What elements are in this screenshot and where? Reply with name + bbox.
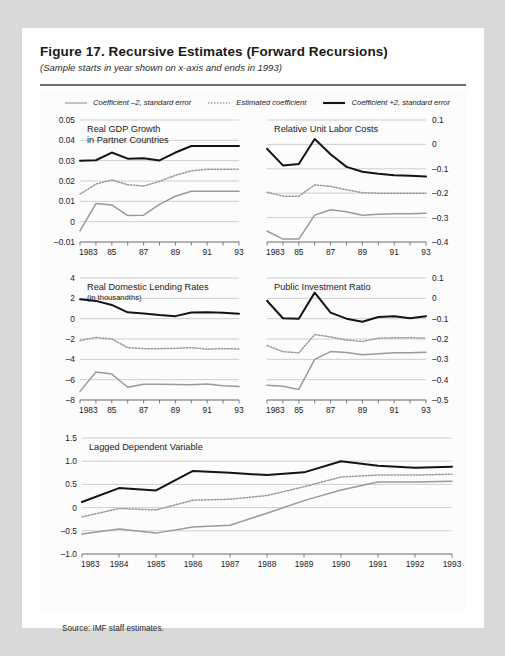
panel-title: Real GDP Growth: [87, 124, 160, 134]
y-axis-tick-label: –4: [66, 354, 76, 364]
series-line: [80, 146, 239, 161]
chart-panel-5: –1.0–0.500.51.01.51983198419851986198719…: [40, 430, 466, 580]
y-axis-tick-label: 0.1: [432, 273, 444, 283]
series-line: [267, 335, 426, 353]
page-background: Figure 17. Recursive Estimates (Forward …: [0, 0, 505, 656]
line-chart-1: –0.0100.010.020.030.040.0519838587899193…: [40, 112, 253, 264]
line-chart-2: –0.4–0.3–0.2–0.100.119838587899193Relati…: [253, 112, 466, 264]
x-axis-tick-label: 1989: [295, 559, 314, 569]
y-axis-tick-label: 0.01: [59, 196, 76, 206]
x-axis-tick-label: 1993: [443, 559, 462, 569]
x-axis-tick-label: 93: [421, 247, 431, 257]
x-axis-tick-label: 1983: [266, 247, 285, 257]
x-axis-tick-label: 87: [139, 405, 149, 415]
line-chart-3: –8–6–4–202419838587899193Real Domestic L…: [40, 270, 253, 422]
x-axis-tick-label: 87: [326, 247, 336, 257]
header-divider: [40, 84, 466, 86]
x-axis-tick-label: 89: [171, 405, 181, 415]
plot-grid: –0.0100.010.020.030.040.0519838587899193…: [40, 112, 466, 582]
chart-panel-4: –0.5–0.4–0.3–0.2–0.100.119838587899193Pu…: [253, 270, 466, 422]
x-axis-tick-label: 85: [107, 247, 117, 257]
y-axis-tick-label: –2: [66, 334, 76, 344]
x-axis-tick-label: 1983: [79, 247, 98, 257]
panel-title: Relative Unit Labor Costs: [274, 124, 379, 134]
figure-header: Figure 17. Recursive Estimates (Forward …: [40, 44, 466, 73]
x-axis-tick-label: 87: [139, 247, 149, 257]
x-axis-tick-label: 1983: [266, 405, 285, 415]
x-axis-tick-label: 1991: [369, 559, 388, 569]
x-axis-tick-label: 1986: [184, 559, 203, 569]
x-axis-tick-label: 1990: [332, 559, 351, 569]
x-axis-tick-label: 1987: [221, 559, 240, 569]
series-line: [267, 210, 426, 239]
line-chart-4: –0.5–0.4–0.3–0.2–0.100.119838587899193Pu…: [253, 270, 466, 422]
chart-legend: Coefficient –2, standard errorEstimated …: [62, 98, 452, 107]
source-note: Source: IMF staff estimates.: [62, 624, 164, 633]
x-axis-tick-label: 1988: [258, 559, 277, 569]
panel-title: Lagged Dependent Variable: [89, 442, 203, 452]
y-axis-tick-label: –1.0: [61, 549, 78, 559]
y-axis-tick-label: –0.4: [432, 237, 449, 247]
x-axis-tick-label: 93: [421, 405, 431, 415]
x-axis-tick-label: 91: [390, 247, 400, 257]
x-axis-tick-label: 91: [203, 405, 213, 415]
x-axis-tick-label: 89: [358, 405, 368, 415]
x-axis-tick-label: 91: [203, 247, 213, 257]
y-axis-tick-label: –0.3: [432, 213, 449, 223]
panel-title: in Partner Countries: [87, 135, 169, 145]
y-axis-tick-label: –0.5: [432, 395, 449, 405]
legend-swatch-dotted-icon: [207, 99, 231, 107]
y-axis-tick-label: 0.05: [59, 115, 76, 125]
x-axis-tick-label: 1985: [147, 559, 166, 569]
y-axis-tick-label: –6: [66, 375, 76, 385]
x-axis-tick-label: 1983: [79, 405, 98, 415]
series-line: [267, 352, 426, 390]
y-axis-tick-label: –0.5: [61, 526, 78, 536]
series-line: [267, 293, 426, 322]
x-axis-tick-label: 93: [234, 247, 244, 257]
series-line: [82, 474, 452, 517]
x-axis-tick-label: 85: [294, 405, 304, 415]
panel-title: Real Domestic Lending Rates: [87, 282, 209, 292]
legend-swatch-thin-solid-icon: [64, 99, 88, 107]
y-axis-tick-label: –0.3: [432, 354, 449, 364]
x-axis-tick-label: 89: [171, 247, 181, 257]
y-axis-tick-label: 4: [70, 273, 75, 283]
x-axis-tick-label: 91: [390, 405, 400, 415]
y-axis-tick-label: –0.1: [432, 314, 449, 324]
y-axis-tick-label: 0: [72, 503, 77, 513]
y-axis-tick-label: 0: [432, 293, 437, 303]
legend-item: Coefficient +2, standard error: [322, 98, 450, 107]
panel-title: Public Investment Ratio: [274, 282, 371, 292]
legend-item: Estimated coefficient: [207, 98, 306, 107]
y-axis-tick-label: –0.4: [432, 375, 449, 385]
y-axis-tick-label: 0.03: [59, 156, 76, 166]
x-axis-tick-label: 89: [358, 247, 368, 257]
y-axis-tick-label: –0.1: [432, 164, 449, 174]
figure-card: Figure 17. Recursive Estimates (Forward …: [22, 28, 484, 628]
legend-item: Coefficient –2, standard error: [64, 98, 191, 107]
y-axis-tick-label: –8: [66, 395, 76, 405]
legend-label: Coefficient –2, standard error: [93, 98, 191, 107]
x-axis-tick-label: 1992: [406, 559, 425, 569]
line-chart-5: –1.0–0.500.51.01.51983198419851986198719…: [40, 430, 466, 580]
series-line: [80, 191, 239, 231]
series-line: [267, 185, 426, 196]
x-axis-tick-label: 1983: [81, 559, 100, 569]
y-axis-tick-label: 0.1: [432, 115, 444, 125]
figure-title: Figure 17. Recursive Estimates (Forward …: [40, 44, 466, 59]
legend-label: Coefficient +2, standard error: [351, 98, 450, 107]
y-axis-tick-label: 0: [432, 139, 437, 149]
series-line: [80, 372, 239, 391]
chart-area: Coefficient –2, standard errorEstimated …: [40, 90, 466, 612]
chart-panel-3: –8–6–4–202419838587899193Real Domestic L…: [40, 270, 253, 422]
x-axis-tick-label: 85: [294, 247, 304, 257]
y-axis-tick-label: 0.5: [65, 479, 77, 489]
y-axis-tick-label: 2: [70, 293, 75, 303]
y-axis-tick-label: –0.2: [432, 188, 449, 198]
y-axis-tick-label: 0.04: [59, 135, 76, 145]
y-axis-tick-label: 0.02: [59, 176, 76, 186]
chart-panel-1: –0.0100.010.020.030.040.0519838587899193…: [40, 112, 253, 264]
y-axis-tick-label: 0: [70, 217, 75, 227]
figure-subtitle: (Sample starts in year shown on x-axis a…: [40, 62, 466, 73]
